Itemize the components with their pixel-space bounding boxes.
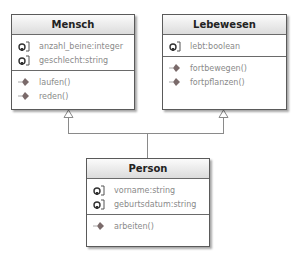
attribute-row[interactable]: lebt:boolean [163, 39, 286, 53]
class-name: Person [87, 159, 209, 179]
attribute-icon [17, 55, 31, 66]
class-lebewesen[interactable]: Lebewesen lebt:boolean fortbewegen() for… [162, 14, 287, 110]
attribute-text: geburtsdatum:string [114, 200, 196, 209]
attributes-section: anzahl_beine:integer geschlecht:string [12, 35, 134, 71]
operations-section: fortbewegen() fortpflanzen() [163, 57, 286, 92]
attribute-icon [168, 41, 182, 52]
attribute-text: lebt:boolean [190, 42, 240, 51]
operation-row[interactable]: arbeiten() [87, 219, 209, 233]
attribute-text: geschlecht:string [39, 56, 108, 65]
attributes-section: vorname:string geburtsdatum:string [87, 179, 209, 215]
operation-icon [17, 77, 31, 87]
operations-section: arbeiten() [87, 215, 209, 236]
operations-section: laufen() reden() [12, 71, 134, 106]
attribute-row[interactable]: geburtsdatum:string [87, 197, 209, 211]
operation-text: fortpflanzen() [190, 78, 245, 87]
operation-text: reden() [39, 92, 68, 101]
attribute-text: anzahl_beine:integer [39, 42, 123, 51]
operation-row[interactable]: reden() [12, 89, 134, 103]
attribute-row[interactable]: geschlecht:string [12, 53, 134, 67]
attribute-icon [92, 199, 106, 210]
attributes-section: lebt:boolean [163, 35, 286, 57]
operation-icon [168, 63, 182, 73]
operation-row[interactable]: fortbewegen() [163, 61, 286, 75]
class-mensch[interactable]: Mensch anzahl_beine:integer geschlecht:s… [11, 14, 135, 110]
operation-icon [168, 77, 182, 87]
class-name: Mensch [12, 15, 134, 35]
operation-row[interactable]: fortpflanzen() [163, 75, 286, 89]
class-person[interactable]: Person vorname:string geburtsdatum:strin… [86, 158, 210, 247]
attribute-icon [17, 41, 31, 52]
attribute-icon [92, 185, 106, 196]
operation-row[interactable]: laufen() [12, 75, 134, 89]
attribute-row[interactable]: anzahl_beine:integer [12, 39, 134, 53]
class-name: Lebewesen [163, 15, 286, 35]
generalization-arrow-mensch [64, 110, 73, 118]
operation-text: laufen() [39, 78, 70, 87]
attribute-row[interactable]: vorname:string [87, 183, 209, 197]
generalization-arrow-lebewesen [219, 110, 228, 118]
operation-icon [92, 221, 106, 231]
operation-icon [17, 91, 31, 101]
operation-text: fortbewegen() [190, 64, 247, 73]
attribute-text: vorname:string [114, 186, 175, 195]
operation-text: arbeiten() [114, 222, 154, 231]
